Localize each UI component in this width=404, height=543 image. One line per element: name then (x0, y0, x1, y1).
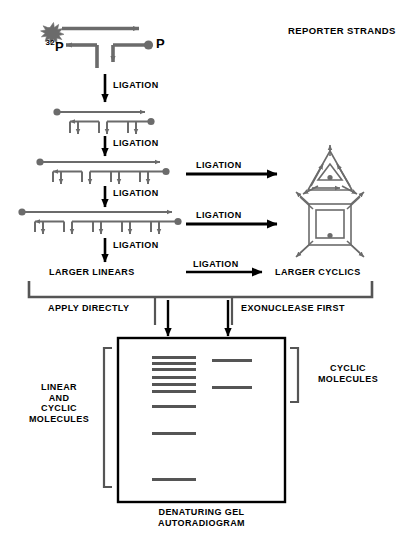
gel-band (152, 390, 196, 393)
figure-title: REPORTER STRANDS (288, 25, 396, 36)
gel-band (152, 376, 196, 379)
apply-directly-label: APPLY DIRECTLY (48, 303, 129, 314)
ligation-label-cyclic-square: LIGATION (196, 210, 242, 221)
phosphate-label: P (156, 36, 165, 51)
gel-caption-line2: AUTORADIOGRAM (118, 518, 285, 529)
larger-linears-label: LARGER LINEARS (49, 267, 135, 278)
ligation-label-1: LIGATION (113, 80, 159, 91)
bracket-cyclic (290, 348, 298, 402)
ligation-label-cyclic-triangle: LIGATION (196, 160, 242, 171)
linear-and-cyclic-molecules-label: LINEARANDCYCLICMOLECULES (22, 382, 96, 424)
label-line: LINEAR (22, 382, 96, 393)
gel-band (152, 362, 196, 365)
ligation-label-2: LIGATION (113, 138, 159, 149)
gel-band (212, 386, 252, 389)
label-line: MOLECULES (22, 414, 96, 425)
figure-canvas: REPORTER STRANDS 32P P LIGATION LIGATION… (0, 0, 404, 543)
ligation-label-larger-cyclics: LIGATION (193, 259, 239, 270)
phosphate-dot (174, 218, 181, 225)
phosphate-dot (162, 168, 169, 175)
label-line: CYCLIC (22, 403, 96, 414)
gel-band (152, 405, 196, 408)
gel-band (152, 356, 196, 359)
exonuclease-first-label: EXONUCLEASE FIRST (241, 303, 345, 314)
gel-band (152, 478, 196, 481)
radiolabel-element: P (55, 39, 64, 54)
label-line: CYCLIC (307, 363, 389, 374)
cyclic-molecule-square (296, 192, 364, 257)
ligation-label-4: LIGATION (113, 240, 159, 251)
gel-band (152, 368, 196, 371)
gel-box (118, 338, 285, 502)
reporter-strand-trimer (36, 158, 169, 184)
phosphate-dot (147, 118, 154, 125)
larger-cyclics-label: LARGER CYCLICS (275, 267, 361, 278)
label-line: MOLECULES (307, 374, 389, 385)
gel-load-arrows (168, 300, 228, 336)
gel-band (152, 383, 196, 386)
ligation-label-3: LIGATION (113, 188, 159, 199)
reporter-strand-tetramer (18, 208, 181, 234)
cyclic-molecule-triangle (303, 145, 357, 194)
bracket-linear-and-cyclic (104, 348, 112, 487)
reporter-strand-dimer (53, 108, 154, 134)
gel-caption-line1: DENATURING GEL (118, 507, 285, 518)
gel-band (152, 432, 196, 435)
radiolabel-text: 32P (26, 18, 64, 75)
gel-band (212, 359, 252, 362)
label-line: AND (22, 393, 96, 404)
cyclic-molecules-label: CYCLICMOLECULES (307, 363, 389, 384)
radiolabel-superscript: 32 (45, 38, 55, 47)
phosphate-dot (144, 40, 153, 49)
